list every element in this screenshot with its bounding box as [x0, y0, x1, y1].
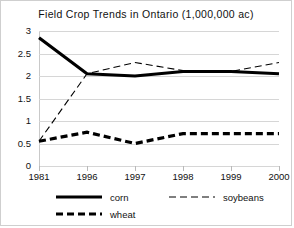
y-axis-tick-label: 0 [26, 160, 31, 171]
x-axis-tick-labels: 198119961997199819992000 [39, 171, 279, 187]
y-axis-tick-label: 2.5 [18, 48, 31, 59]
series-line-corn [39, 38, 279, 76]
x-axis-tick-label: 1999 [220, 171, 241, 182]
y-axis-tick-label: 1.5 [18, 93, 31, 104]
chart-title: Field Crop Trends in Ontario (1,000,000 … [1, 8, 291, 20]
series-line-wheat [39, 132, 279, 143]
x-axis-tick-label: 1981 [28, 171, 49, 182]
legend-item-wheat: wheat [56, 208, 135, 220]
y-axis-tick-label: 3 [26, 25, 31, 36]
legend-swatch-soybeans [169, 191, 215, 203]
x-axis-tick-label: 1996 [76, 171, 97, 182]
gridline [39, 166, 279, 167]
legend-label: corn [110, 192, 128, 203]
plot-area [39, 31, 279, 166]
x-axis-tick-label: 1997 [124, 171, 145, 182]
legend-item-soybeans: soybeans [169, 191, 264, 203]
series-lines [39, 31, 279, 166]
legend-label: soybeans [223, 192, 264, 203]
y-axis-tick-labels: 00.511.522.53 [1, 31, 35, 166]
y-axis-tick-label: 2 [26, 70, 31, 81]
chart-legend: cornsoybeanswheat [1, 191, 291, 225]
chart-container: Field Crop Trends in Ontario (1,000,000 … [0, 0, 292, 226]
legend-label: wheat [110, 209, 135, 220]
x-axis-tick-label: 1998 [172, 171, 193, 182]
x-axis-tick-label: 2000 [268, 171, 289, 182]
legend-swatch-wheat [56, 208, 102, 220]
legend-item-corn: corn [56, 191, 128, 203]
y-axis-tick-label: 0.5 [18, 138, 31, 149]
y-axis-tick-label: 1 [26, 115, 31, 126]
legend-swatch-corn [56, 191, 102, 203]
